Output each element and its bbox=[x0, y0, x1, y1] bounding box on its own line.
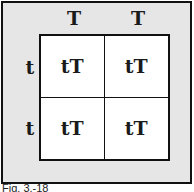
column-allele-header: T bbox=[106, 8, 170, 28]
row-allele-header: t bbox=[22, 118, 38, 138]
figure-caption: Fig. 3.-18 bbox=[2, 182, 48, 192]
punnett-grid: tT tT tT tT bbox=[39, 34, 170, 161]
genotype-cell: tT bbox=[41, 98, 105, 160]
genotype-cell: tT bbox=[105, 98, 169, 160]
column-allele-header: T bbox=[42, 8, 106, 28]
genotype-cell: tT bbox=[105, 36, 169, 98]
genotype-cell: tT bbox=[41, 36, 105, 98]
row-allele-header: t bbox=[22, 57, 38, 77]
